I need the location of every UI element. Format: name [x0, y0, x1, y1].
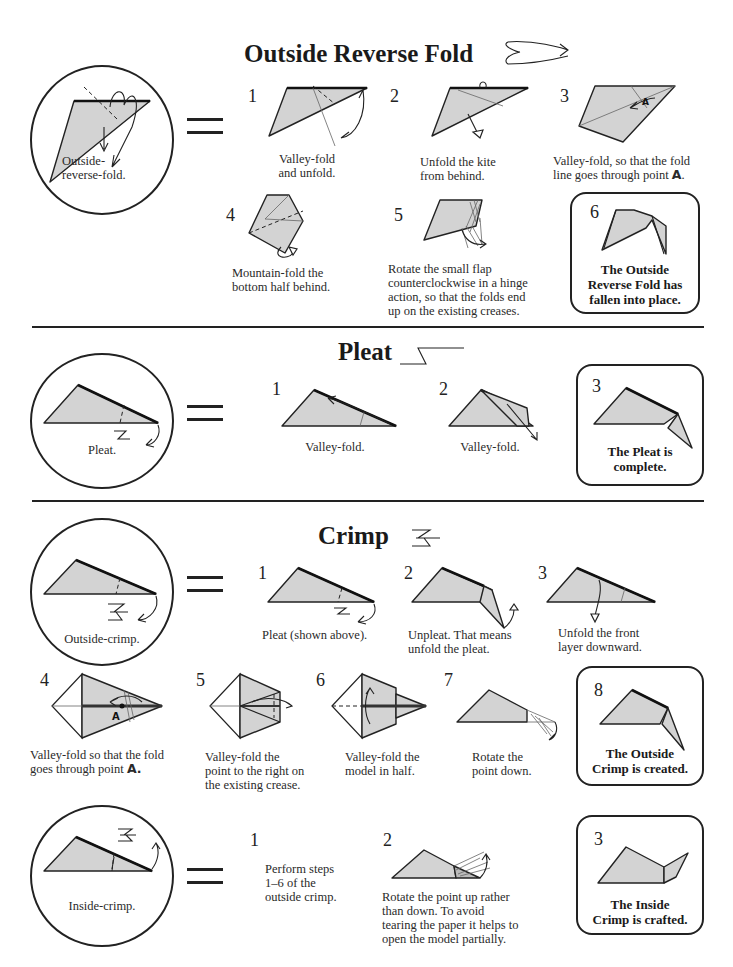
result-caption: The Outside Crimp is created.	[578, 746, 702, 776]
svg-text:A: A	[642, 97, 649, 107]
step-number: 3	[560, 86, 569, 107]
result-caption: The Outside Reverse Fold has fallen into…	[572, 262, 698, 307]
equals-sign	[187, 576, 223, 602]
crimp-step-2-diagram	[410, 566, 520, 636]
svg-text:A: A	[112, 711, 120, 722]
step-number: 1	[250, 830, 259, 851]
summary-circle-outside-reverse-fold: Outside- reverse-fold.	[30, 65, 174, 215]
step-number: 6	[316, 670, 325, 691]
section-divider	[32, 500, 704, 502]
pleat-step-2-diagram	[447, 388, 547, 448]
result-caption: The Pleat is complete.	[578, 444, 702, 474]
section-title-outside-reverse-fold: Outside Reverse Fold	[244, 40, 473, 68]
equals-sign	[187, 405, 223, 431]
step-6-diagram	[602, 208, 682, 258]
crimp-step-3-diagram	[545, 566, 665, 626]
point-a-label: A.	[127, 761, 142, 776]
crimp-step-6-diagram	[330, 672, 430, 740]
inside-crimp-step-3-diagram	[596, 843, 706, 903]
step-caption: Valley-fold the model in half.	[345, 750, 420, 778]
step-number: 2	[390, 86, 399, 107]
crimp-symbol-icon	[410, 528, 446, 548]
step-caption: Rotate the small flap counterclockwise i…	[388, 262, 528, 318]
step-caption: Valley-fold the point to the right on th…	[205, 750, 304, 792]
step-2-diagram	[428, 86, 528, 156]
step-caption: Unfold the kite from behind.	[420, 155, 496, 183]
result-box-pleat: 3 The Pleat is complete.	[576, 364, 704, 486]
step-caption: Valley-fold, so that the fold line goes …	[553, 154, 690, 182]
step-number: 5	[394, 205, 403, 226]
summary-caption-outside-crimp: Outside-crimp.	[32, 632, 172, 646]
result-box-outside-reverse-fold: 6 The Outside Reverse Fold has fallen in…	[570, 192, 700, 314]
crimp-step-7-diagram	[455, 688, 565, 748]
summary-caption-pleat: Pleat.	[32, 443, 172, 457]
step-caption: Unpleat. That means unfold the pleat.	[408, 628, 512, 656]
step-number: 4	[40, 670, 49, 691]
step-caption: Pleat (shown above).	[262, 628, 367, 642]
result-caption: The Inside Crimp is crafted.	[578, 897, 702, 927]
section-divider	[32, 326, 704, 328]
outside-reverse-fold-symbol-icon	[500, 38, 575, 68]
section-title-pleat: Pleat	[338, 338, 392, 366]
inside-crimp-summary-diagram	[32, 807, 176, 949]
step-caption: Mountain-fold the bottom half behind.	[232, 266, 330, 294]
summary-circle-inside-crimp: Inside-crimp.	[30, 805, 174, 947]
step-caption: Valley-fold so that the fold goes throug…	[30, 748, 164, 776]
step-number: 5	[196, 670, 205, 691]
step-4-diagram	[245, 193, 325, 265]
summary-caption-inside-crimp: Inside-crimp.	[32, 899, 172, 913]
step-caption: Valley-fold.	[445, 440, 535, 454]
section-title-crimp: Crimp	[318, 522, 389, 550]
result-box-inside-crimp: 3 The Inside Crimp is crafted.	[576, 815, 704, 935]
step-caption: Unfold the front layer downward.	[558, 626, 642, 654]
step-3-diagram: A	[575, 84, 680, 152]
crimp-step-1-diagram	[266, 566, 386, 626]
step-caption: Valley-fold and unfold.	[262, 152, 352, 180]
pleat-summary-diagram	[32, 355, 176, 491]
step-number: 6	[590, 202, 599, 223]
equals-sign	[187, 868, 223, 894]
step-number: 1	[248, 86, 257, 107]
step-number: 7	[444, 670, 453, 691]
point-a-label: A	[672, 167, 682, 182]
equals-sign	[187, 118, 223, 144]
pleat-step-1-diagram	[280, 388, 400, 428]
step-caption: Rotate the point down.	[472, 750, 532, 778]
pleat-symbol-icon	[398, 346, 468, 366]
step-caption: Valley-fold.	[290, 440, 380, 454]
step-1-diagram	[265, 86, 365, 156]
crimp-step-5-diagram	[208, 672, 308, 740]
summary-circle-outside-crimp: Outside-crimp.	[30, 518, 174, 666]
step-5-diagram	[420, 198, 500, 260]
crimp-step-4-diagram: A	[50, 672, 165, 740]
outside-reverse-fold-summary-diagram	[32, 67, 176, 217]
result-box-outside-crimp: 8 The Outside Crimp is created.	[576, 666, 704, 786]
summary-circle-pleat: Pleat.	[30, 353, 174, 489]
step-number: 4	[226, 205, 235, 226]
summary-caption-outside-reverse-fold: Outside- reverse-fold.	[62, 154, 126, 182]
step-caption: Rotate the point up rather than down. To…	[382, 890, 518, 946]
step-caption: Perform steps 1–6 of the outside crimp.	[265, 862, 337, 904]
